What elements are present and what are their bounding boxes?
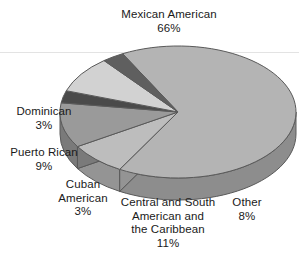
slice-label-line: Puerto Rican xyxy=(0,146,88,160)
slice-percent: 9% xyxy=(0,160,88,174)
slice-label-line: American and xyxy=(110,210,226,224)
slice-label-dominican: Dominican 3% xyxy=(2,105,86,132)
slice-label-line: Dominican xyxy=(2,105,86,119)
slice-label-line: Central and South xyxy=(110,196,226,210)
slice-label-line: Cuban xyxy=(46,178,120,192)
slice-label-puerto-rican: Puerto Rican 9% xyxy=(0,146,88,173)
slice-percent: 11% xyxy=(110,237,226,251)
slice-label-line: the Caribbean xyxy=(110,223,226,237)
slice-percent: 3% xyxy=(2,119,86,133)
slice-label-line: American xyxy=(46,192,120,206)
slice-percent: 66% xyxy=(96,22,242,36)
slice-label-central-and-south-american-and-the-caribbean: Central and South American and the Carib… xyxy=(110,196,226,250)
slice-label-line: Other xyxy=(218,196,276,210)
slice-percent: 8% xyxy=(218,210,276,224)
slice-label-line: Mexican American xyxy=(96,8,242,22)
pie-chart-screenshot: Mexican American 66% Dominican 3% Puerto… xyxy=(0,0,299,268)
slice-label-other: Other 8% xyxy=(218,196,276,223)
slice-percent: 3% xyxy=(46,205,120,219)
slice-label-cuban-american: Cuban American 3% xyxy=(46,178,120,219)
slice-label-mexican-american: Mexican American 66% xyxy=(96,8,242,35)
